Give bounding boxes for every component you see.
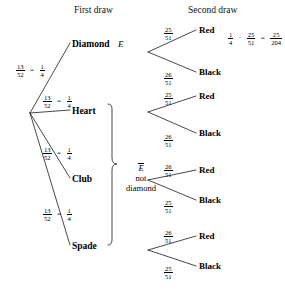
node-spade: Spade [72, 242, 97, 252]
multiply-dot: · [237, 34, 242, 42]
leaf-heart-red: Red [199, 92, 215, 101]
prob-heart-red: 25 51 [164, 88, 173, 106]
equals-sign: = [56, 149, 63, 157]
leaf-diamond-black: Black [199, 68, 221, 77]
prob-diamond-black: 26 51 [164, 68, 173, 86]
leaf-club-red: Red [199, 166, 215, 175]
prob-diamond-red: 25 51 [164, 23, 173, 41]
complement-brace [108, 104, 117, 245]
prob-spade-red: 26 51 [164, 226, 173, 244]
leaf-heart-black: Black [199, 129, 221, 138]
prob-club-black: 25 51 [164, 196, 173, 214]
node-heart: Heart [72, 107, 96, 117]
fraction-13-52: 13 52 [43, 207, 52, 222]
branch-prob-club: 13 52 = 1 4 [43, 143, 72, 161]
leaf-club-black: Black [199, 196, 221, 205]
leaf-spade-black: Black [199, 262, 221, 271]
equals-sign: = [56, 210, 63, 218]
fraction-13-52: 13 52 [16, 63, 25, 78]
fraction-25-51: 25 51 [247, 31, 256, 46]
branch-prob-heart: 13 52 = 1 4 [43, 91, 72, 109]
joint-probability-expression: 1 4 · 25 51 = 25 204 [228, 28, 282, 46]
fraction-1-4: 1 4 [67, 146, 72, 161]
probability-tree-diagram: First draw Second draw Diamond E Heart C… [0, 0, 285, 292]
prob-heart-black: 26 51 [164, 130, 173, 148]
branch-prob-diamond: 13 52 = 1 4 [16, 60, 45, 78]
complement-line-not: not [136, 173, 147, 183]
prob-club-red: 26 51 [164, 160, 173, 178]
leaf-spade-red: Red [199, 232, 215, 241]
first-draw-header: First draw [74, 6, 113, 16]
fraction-25-204: 25 204 [270, 31, 282, 46]
branch-root-heart [30, 110, 70, 113]
node-diamond: Diamond [72, 40, 109, 50]
fraction-13-52: 13 52 [43, 94, 52, 109]
equals-sign: = [259, 34, 266, 42]
leaf-diamond-red: Red [199, 26, 215, 35]
fraction-1-4: 1 4 [40, 63, 45, 78]
prob-spade-black: 25 51 [164, 262, 173, 280]
event-e-label: E [118, 40, 124, 49]
fraction-1-4: 1 4 [67, 207, 72, 222]
branch-root-spade [30, 113, 70, 245]
second-draw-header: Second draw [188, 6, 237, 16]
equals-sign: = [29, 66, 36, 74]
equals-sign: = [56, 97, 63, 105]
fraction-1-4: 1 4 [228, 31, 233, 46]
branch-prob-spade: 13 52 = 1 4 [43, 204, 72, 222]
fraction-13-52: 13 52 [43, 146, 52, 161]
node-club: Club [72, 175, 92, 185]
e-bar-symbol: E [138, 163, 143, 173]
complement-line-diamond: diamond [126, 183, 156, 193]
complement-event-label: E not diamond [118, 163, 164, 193]
fraction-1-4: 1 4 [67, 94, 72, 109]
